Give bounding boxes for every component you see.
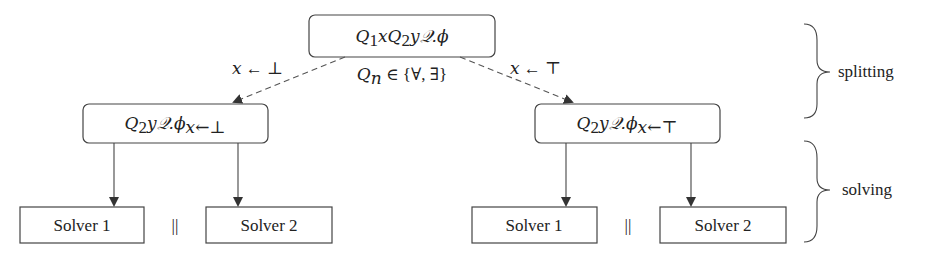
quantifier-note: Qn ∈ {∀, ∃} [357, 64, 447, 88]
edge-label-false: x ← ⊥ [232, 58, 283, 78]
parallel-symbol-left: || [172, 216, 179, 235]
phase-label-solving: solving [842, 180, 893, 199]
portfolio-splitting-diagram: Q1xQ2y𝒬.ϕ Qn ∈ {∀, ∃} x ← ⊥ x ← ⊤ Q2y𝒬.ϕ… [0, 0, 939, 261]
left-solver-2: Solver 2 [206, 207, 332, 243]
left-solver-2-label: Solver 2 [240, 216, 297, 235]
right-branch-node: Q2y𝒬.ϕx←⊤ [535, 104, 720, 143]
parallel-symbol-right: || [625, 216, 632, 235]
right-solver-2-label: Solver 2 [694, 216, 751, 235]
solving-brace [804, 141, 830, 242]
left-solver-1-label: Solver 1 [53, 216, 110, 235]
right-solver-1: Solver 1 [472, 207, 597, 243]
right-solver-1-label: Solver 1 [505, 216, 562, 235]
right-solver-2: Solver 2 [660, 207, 786, 243]
left-branch-node: Q2y𝒬.ϕx←⊥ [83, 104, 268, 143]
left-solver-1: Solver 1 [20, 207, 144, 243]
splitting-brace [804, 24, 830, 118]
edge-label-true: x ← ⊤ [510, 58, 561, 78]
phase-label-splitting: splitting [838, 62, 894, 81]
root-node: Q1xQ2y𝒬.ϕ [309, 15, 495, 57]
